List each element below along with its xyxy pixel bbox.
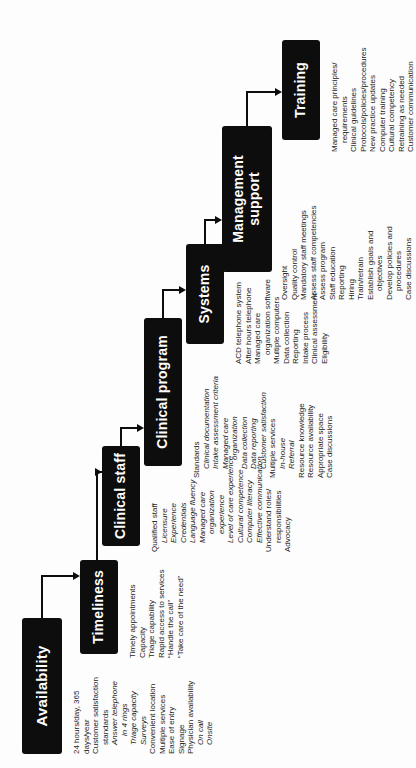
- list-item: Train/retrain: [356, 205, 366, 300]
- list-item: Onsite: [205, 677, 215, 754]
- list-item: Multiple services: [158, 677, 168, 754]
- list-item: organization: [230, 376, 240, 478]
- list-item: Quality control: [290, 205, 300, 300]
- list-item: Customer satisfaction: [91, 677, 101, 754]
- list-item: Cultural competency: [387, 48, 397, 153]
- list-item: Hiring: [347, 205, 357, 300]
- item-list-management-support: OversightQuality controlMandatory staff …: [280, 205, 413, 300]
- list-item: “Take care of the need”: [176, 570, 186, 658]
- connector-clinical-program-systems-drop: [162, 290, 179, 292]
- item-list-timeliness: Timely appointmentsCapacityTriage capabi…: [128, 570, 185, 658]
- list-item: Licensure: [160, 456, 170, 552]
- list-item: ACD telephone system: [234, 279, 244, 364]
- list-item: New practice updates: [368, 48, 378, 153]
- list-item: Triage capacity: [129, 677, 139, 754]
- list-item: Develop policies and: [385, 205, 395, 300]
- category-box-systems: Systems: [186, 244, 224, 344]
- list-item: “Handle the call”: [166, 570, 176, 658]
- list-item: Referral: [287, 376, 297, 478]
- list-item: Reporting: [337, 205, 347, 300]
- item-list-availability: 24 hours/day, 365days/yearCustomer satis…: [72, 677, 215, 754]
- list-item: Staff education: [328, 205, 338, 300]
- list-item: Mandatory staff meetings: [299, 205, 309, 300]
- arrowhead-icon: [179, 286, 186, 294]
- list-item: Managed care: [253, 279, 263, 364]
- stairstep-diagram: Availability Timeliness Clinical staff C…: [0, 0, 416, 768]
- list-item: In-house: [278, 376, 288, 478]
- item-list-training: Managed care principles/requirementsClin…: [330, 48, 416, 153]
- connector-availability-timeliness: [41, 576, 43, 618]
- list-item: Capacity: [138, 570, 148, 658]
- list-item: procedures: [394, 205, 404, 300]
- list-item: requirements: [340, 48, 350, 153]
- connector-availability-timeliness-drop: [41, 576, 73, 578]
- arrowhead-icon: [215, 216, 222, 224]
- list-item: Rapid access to services: [157, 570, 167, 658]
- list-item: Assess staff competencies: [309, 205, 319, 300]
- list-item: Customer satisfaction: [259, 376, 269, 478]
- list-item: Assess program: [318, 205, 328, 300]
- list-item: Multiple services: [268, 376, 278, 478]
- list-item: Clinical documentation: [202, 376, 212, 478]
- list-item: Qualified staff: [150, 456, 160, 552]
- list-item: Triage capability: [147, 570, 157, 658]
- list-item: Convenient location: [148, 677, 158, 754]
- connector-management-support-training: [246, 92, 248, 126]
- item-list-clinical-program: StandardsClinical documentationIntake as…: [192, 376, 335, 478]
- list-item: Resource knowledge: [297, 376, 307, 478]
- list-item: Retraining as needed: [397, 48, 407, 153]
- list-item: Surveys: [139, 677, 149, 754]
- list-item: After hours telephone: [244, 279, 254, 364]
- connector-systems-management-support-drop: [204, 220, 215, 222]
- list-item: Clinical guidelines: [349, 48, 359, 153]
- list-item: Signage: [177, 677, 187, 754]
- arrowhead-icon: [73, 572, 80, 580]
- list-item: in 4 rings: [120, 677, 130, 754]
- connector-clinical-program-systems: [162, 290, 164, 318]
- connector-clinical-staff-clinical-program: [120, 428, 122, 446]
- list-item: Customer communication: [406, 48, 416, 153]
- list-item: Intake assessment criteria: [211, 376, 221, 478]
- list-item: 24 hours/day, 365: [72, 677, 82, 754]
- list-item: Protocols/policies/procedures: [359, 48, 369, 153]
- list-item: Timely appointments: [128, 570, 138, 658]
- list-item: Case discussions: [325, 376, 335, 478]
- list-item: Resource availability: [306, 376, 316, 478]
- list-item: Credentials: [179, 456, 189, 552]
- list-item: objectives: [375, 205, 385, 300]
- category-box-clinical-staff: Clinical staff: [102, 446, 140, 546]
- arrowhead-icon: [137, 424, 144, 432]
- list-item: Managed care principles/: [330, 48, 340, 153]
- list-item: organization software: [263, 279, 273, 364]
- list-item: Establish goals and: [366, 205, 376, 300]
- list-item: Case discussions: [404, 205, 414, 300]
- list-item: Appropriate space: [316, 376, 326, 478]
- list-item: Data reporting: [249, 376, 259, 478]
- category-box-clinical-program: Clinical program: [144, 318, 182, 466]
- connector-management-support-training-drop: [246, 92, 275, 94]
- connector-timeliness-clinical-staff: [96, 472, 98, 560]
- arrowhead-icon: [95, 468, 102, 476]
- category-box-management-support: Management support: [222, 126, 272, 272]
- list-item: Standards: [192, 376, 202, 478]
- list-item: Oversight: [280, 205, 290, 300]
- category-box-timeliness: Timeliness: [80, 560, 118, 654]
- scanned-figure-page: Availability Timeliness Clinical staff C…: [0, 0, 416, 768]
- arrowhead-icon: [275, 88, 282, 96]
- list-item: Experience: [169, 456, 179, 552]
- list-item: Managed care: [221, 376, 231, 478]
- list-item: standards: [101, 677, 111, 754]
- connector-systems-management-support: [204, 220, 206, 244]
- list-item: On call: [196, 677, 206, 754]
- list-item: Physician availability: [186, 677, 196, 754]
- list-item: Data collection: [240, 376, 250, 478]
- list-item: Answer telephone: [110, 677, 120, 754]
- list-item: days/year: [82, 677, 92, 754]
- connector-clinical-staff-clinical-program-drop: [120, 428, 137, 430]
- category-box-availability: Availability: [22, 618, 62, 754]
- category-box-training: Training: [282, 40, 320, 140]
- list-item: Computer training: [378, 48, 388, 153]
- list-item: Ease of entry: [167, 677, 177, 754]
